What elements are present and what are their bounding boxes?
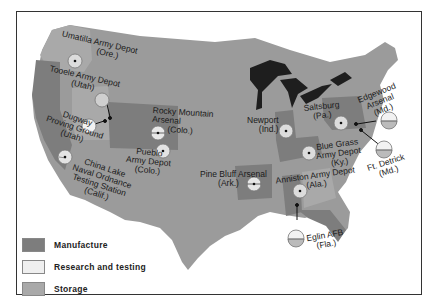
label-newport: Newport (Ind.)	[247, 116, 279, 134]
label-saltsburg: Saltsburg (Pa.)	[303, 100, 341, 122]
label-pueblo: Pueblo Army Depot (Colo.)	[125, 146, 172, 178]
legend-item-storage: Storage	[22, 278, 146, 300]
legend-label-manufacture: Manufacture	[54, 240, 108, 250]
label-pinebluff: Pine Bluff Arsenal (Ark.)	[200, 170, 267, 188]
marker-umatilla	[68, 54, 82, 68]
label-newport-state: (Ind.)	[247, 125, 279, 134]
marker-bluegrass	[302, 146, 316, 160]
swatch-research	[22, 260, 45, 274]
legend-item-research: Research and testing	[22, 256, 146, 278]
swatch-manufacture	[22, 238, 45, 252]
legend-item-manufacture: Manufacture	[22, 234, 146, 256]
marker-chinalake	[58, 150, 72, 164]
legend-label-research: Research and testing	[54, 262, 146, 272]
swatch-storage	[22, 282, 45, 296]
marker-newport	[279, 124, 293, 138]
label-pinebluff-state: (Ark.)	[190, 179, 267, 188]
marker-eglin	[288, 230, 304, 247]
map-legend: Manufacture Research and testing Storage	[22, 234, 146, 300]
legend-label-storage: Storage	[54, 284, 88, 294]
label-rocky: Rocky Mountain Arsenal (Colo.)	[151, 106, 214, 137]
